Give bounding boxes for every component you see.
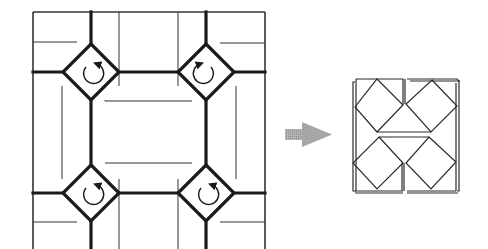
folded-result xyxy=(353,79,460,193)
twist-bottom-right xyxy=(178,165,234,221)
thick-crease-lines xyxy=(33,12,265,249)
square-top-left xyxy=(355,79,403,132)
thin-crease-lines xyxy=(33,12,265,249)
square-bottom-right xyxy=(406,137,456,189)
square-bottom-left xyxy=(353,137,403,189)
outer-frame xyxy=(353,79,460,193)
folding-diagram xyxy=(0,0,488,249)
right-arrow-icon xyxy=(285,122,332,147)
twist-bottom-left xyxy=(63,165,119,221)
center-band xyxy=(377,132,431,137)
twist-top-right xyxy=(178,44,234,100)
square-top-right xyxy=(406,80,457,132)
twist-top-left xyxy=(63,44,119,100)
outer-border xyxy=(33,12,265,249)
crease-pattern xyxy=(33,12,265,249)
